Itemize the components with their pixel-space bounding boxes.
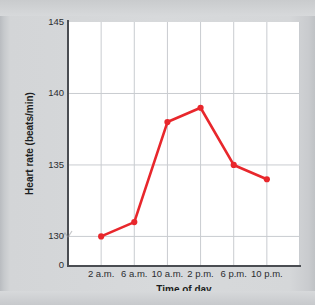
data-point <box>164 119 170 125</box>
x-tick-label: 10 a.m. <box>152 268 184 280</box>
x-tick-label: 2 a.m. <box>88 268 114 280</box>
data-point <box>197 105 203 111</box>
data-point <box>231 162 237 168</box>
x-axis-line <box>67 265 301 267</box>
chart-figure: 1451401351300 2 a.m.6 a.m.10 a.m.2 p.m.6… <box>0 0 315 305</box>
data-point <box>264 176 270 182</box>
data-series-heart-rate <box>68 22 300 265</box>
series-line <box>101 108 267 237</box>
data-point <box>98 233 104 239</box>
y-axis-title: Heart rate (beats/min) <box>24 59 35 229</box>
y-tick-label: 145 <box>30 17 64 27</box>
data-point <box>131 219 137 225</box>
x-tick-label: 2 p.m. <box>187 268 213 280</box>
x-tick-label: 10 p.m. <box>251 268 283 280</box>
y-tick-label: 135 <box>30 160 64 170</box>
x-axis-title: Time of day <box>68 284 300 295</box>
x-tick-label: 6 p.m. <box>221 268 247 280</box>
y-tick-label: 140 <box>30 88 64 98</box>
y-tick-label: 130 <box>30 231 64 241</box>
plot-area <box>68 22 300 265</box>
x-tick-label: 6 a.m. <box>121 268 147 280</box>
x-axis-ticks: 2 a.m.6 a.m.10 a.m.2 p.m.6 p.m.10 p.m. <box>0 268 315 284</box>
